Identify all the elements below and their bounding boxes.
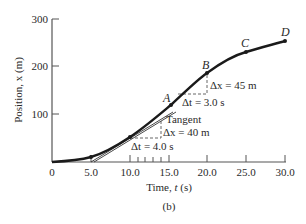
x-tick-label-20: 20.0 (197, 166, 217, 178)
point-label-c: C (241, 36, 250, 50)
point-label-d: D (280, 25, 290, 39)
annotation-dx-45: Δx = 45 m (210, 79, 257, 91)
y-axis-title: Position, x (m) (12, 57, 25, 123)
position-time-chart: 300 200 100 0 5.0 10.0 15.0 20.0 25.0 30… (0, 0, 306, 224)
y-tick-label-300: 300 (32, 13, 49, 25)
point-d (283, 39, 287, 43)
x-tick-label-15: 15.0 (159, 166, 179, 178)
annotation-dt-3: Δt = 3.0 s (182, 96, 225, 108)
point-label-b: B (202, 58, 210, 72)
x-tick-label-10: 10.0 (120, 166, 140, 178)
point-label-a: A (162, 91, 171, 105)
figure-caption: (b) (163, 200, 176, 213)
x-axis-title: Time, t (s) (146, 181, 192, 194)
annotation-tangent: Tangent (166, 113, 201, 125)
y-tick-label-100: 100 (32, 108, 49, 120)
point-c (244, 50, 248, 54)
annotation-dx-40: Δx = 40 m (163, 126, 210, 138)
x-tick-label-0: 0 (49, 166, 55, 178)
x-tick-label-30: 30.0 (275, 166, 295, 178)
point-5s (89, 155, 93, 159)
x-tick-label-25: 25.0 (236, 166, 256, 178)
y-tick-label-200: 200 (32, 60, 49, 72)
annotation-dt-4: Δt = 4.0 s (131, 140, 174, 152)
point-10s (128, 135, 132, 139)
x-tick-label-5: 5.0 (84, 166, 98, 178)
